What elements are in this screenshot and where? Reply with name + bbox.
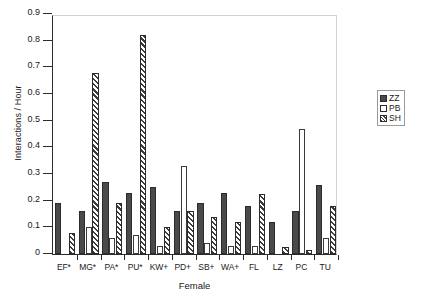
bar-group-fl [245, 16, 265, 254]
hatched-square-icon [380, 115, 387, 122]
x-axis-tick [267, 255, 268, 260]
bar-pb-wa [228, 246, 234, 254]
x-axis-tick [77, 255, 78, 260]
y-axis-tick-label: 0.5 [27, 114, 40, 124]
legend-item-label: PB [389, 104, 400, 113]
y-axis-tick: 0.7 [43, 66, 52, 67]
bar-group-mg [79, 16, 99, 254]
bar-chart: Interactions / Hour 00.10.20.30.40.50.60… [0, 0, 423, 302]
y-axis-tick: 0.9 [43, 13, 52, 14]
bar-sh-wa [235, 222, 241, 254]
bar-sh-tu [330, 206, 336, 254]
chart-legend: ZZPBSH [377, 90, 405, 126]
bar-pb-pc [299, 129, 305, 254]
legend-item-label: SH [389, 114, 401, 123]
bar-group-pa [102, 16, 122, 254]
x-axis-tick [124, 255, 125, 260]
bar-group-sb [197, 16, 217, 254]
bar-pb-pu [133, 235, 139, 254]
bar-group-pc [292, 16, 312, 254]
bar-sh-ef [69, 233, 75, 254]
bar-zz-sb [197, 203, 203, 254]
bar-pb-pa [109, 238, 115, 254]
bar-sh-pu [140, 35, 146, 254]
y-axis-tick: 0.8 [43, 40, 52, 41]
bar-group-kw [150, 16, 170, 254]
x-axis-title: Female [52, 280, 337, 291]
bar-sh-pd [187, 211, 193, 254]
bar-zz-lz [269, 222, 275, 254]
x-axis-tick [219, 255, 220, 260]
bar-zz-fl [245, 206, 251, 254]
y-axis-tick: 0.3 [43, 173, 52, 174]
bar-pb-kw [157, 246, 163, 254]
bar-sh-fl [259, 194, 265, 254]
bar-group-ef [55, 16, 75, 254]
bar-sh-kw [164, 227, 170, 254]
x-axis-tick [101, 255, 102, 260]
legend-item-zz[interactable]: ZZ [380, 93, 401, 103]
y-axis-tick-label: 0.9 [27, 7, 40, 17]
bar-pb-fl [252, 246, 258, 254]
y-axis-tick: 0.6 [43, 93, 52, 94]
y-axis-tick-label: 0.4 [27, 140, 40, 150]
bar-group-wa [221, 16, 241, 254]
y-axis-tick: 0 [43, 253, 52, 254]
y-axis-tick-label: 0.1 [27, 220, 40, 230]
bar-sh-lz [282, 247, 288, 254]
y-axis-tick-label: 0.8 [27, 34, 40, 44]
y-axis-tick-label: 0.7 [27, 60, 40, 70]
y-axis-tick-label: 0 [35, 247, 40, 257]
y-axis-tick-label: 0.6 [27, 87, 40, 97]
bar-group-lz [269, 16, 289, 254]
bar-zz-tu [316, 185, 322, 254]
legend-item-sh[interactable]: SH [380, 113, 401, 123]
legend-item-pb[interactable]: PB [380, 103, 401, 113]
y-axis-tick: 0.5 [43, 120, 52, 121]
bar-pb-sb [204, 243, 210, 254]
y-axis-title: Interactions / Hour [13, 43, 23, 203]
bar-pb-pd [181, 166, 187, 254]
bar-pb-tu [323, 238, 329, 254]
x-axis-tick [148, 255, 149, 260]
plot-area: 00.10.20.30.40.50.60.70.80.9 [52, 15, 337, 255]
bar-zz-pa [102, 182, 108, 254]
y-axis-tick-label: 0.3 [27, 167, 40, 177]
bar-zz-wa [221, 193, 227, 254]
bar-group-pu [126, 16, 146, 254]
bar-zz-pu [126, 193, 132, 254]
x-axis-tick [291, 255, 292, 260]
y-axis-tick: 0.1 [43, 226, 52, 227]
bar-zz-pd [174, 211, 180, 254]
bar-group-tu [316, 16, 336, 254]
y-axis-tick-label: 0.2 [27, 194, 40, 204]
x-axis-tick [243, 255, 244, 260]
bar-zz-ef [55, 203, 61, 254]
filled-square-icon [380, 95, 387, 102]
x-axis-tick [196, 255, 197, 260]
bar-zz-mg [79, 211, 85, 254]
x-axis-tick-label: TU [305, 262, 345, 272]
x-axis-tick [172, 255, 173, 260]
bar-zz-pc [292, 211, 298, 254]
bar-sh-sb [211, 217, 217, 254]
y-axis-tick: 0.2 [43, 200, 52, 201]
open-square-icon [380, 105, 387, 112]
bar-sh-pa [116, 203, 122, 254]
bar-zz-kw [150, 187, 156, 254]
bar-sh-pc [306, 250, 312, 254]
bar-pb-mg [86, 227, 92, 254]
bar-group-pd [174, 16, 194, 254]
x-axis-tick [314, 255, 315, 260]
legend-item-label: ZZ [389, 94, 399, 103]
bar-sh-mg [92, 73, 98, 254]
x-axis-tick [338, 255, 339, 260]
y-axis-tick: 0.4 [43, 146, 52, 147]
